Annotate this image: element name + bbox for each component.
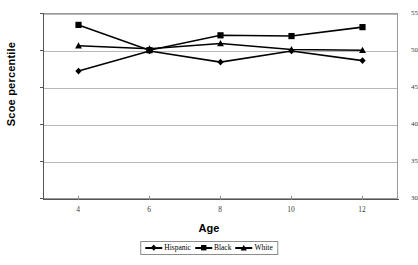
legend-item-white[interactable]: White [235,243,272,252]
y-axis-line [43,13,44,200]
y-tickmark-30 [40,198,43,199]
diamond-marker-icon [145,243,162,252]
legend-label-white: White [253,243,272,252]
legend-label-hispanic: Hispanic [163,243,191,252]
x-tick-label-4: 4 [58,206,98,214]
y-tick-label-35: 35 [380,158,418,165]
y-tick-label-45: 45 [380,84,418,91]
y-tick-label-30: 30 [380,195,418,202]
gridline-35 [44,162,397,163]
x-tickmark-4 [78,196,79,200]
x-axis-title: Age [0,222,418,234]
x-tickmark-6 [149,196,150,200]
x-axis-line [43,199,399,200]
y-tick-label-50: 50 [380,47,418,54]
plot-area [43,13,398,199]
x-tickmark-8 [220,196,221,200]
y-axis-title: Scoe percentile [5,19,17,149]
legend: Hispanic Black White [140,241,278,255]
gridline-50 [44,51,397,52]
x-tick-label-12: 12 [342,206,382,214]
y-tickmark-35 [40,161,43,162]
y-tickmark-50 [40,50,43,51]
x-tick-label-8: 8 [200,206,240,214]
y-tick-label-55: 55 [380,10,418,17]
y-tickmark-55 [40,13,43,14]
y-tickmark-45 [40,87,43,88]
line-chart: 55 50 45 40 35 30 4 6 8 10 12 Scoe perce… [0,0,418,265]
x-tickmark-12 [362,196,363,200]
legend-item-black[interactable]: Black [195,243,232,252]
x-tick-label-10: 10 [271,206,311,214]
legend-item-hispanic[interactable]: Hispanic [145,243,191,252]
gridline-40 [44,125,397,126]
legend-label-black: Black [213,243,232,252]
gridline-45 [44,88,397,89]
gridline-55 [44,14,397,15]
triangle-marker-icon [235,243,252,252]
x-tick-label-6: 6 [129,206,169,214]
y-tickmark-40 [40,124,43,125]
square-marker-icon [195,243,212,252]
y-tick-label-40: 40 [380,121,418,128]
x-tickmark-10 [291,196,292,200]
